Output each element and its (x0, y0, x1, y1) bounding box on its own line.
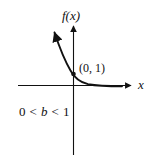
exponential-decay-figure: f(x) x (0, 1) 0 < b < 1 (0, 0, 154, 155)
point-label-0-1: (0, 1) (79, 62, 105, 74)
base-condition-label: 0 < b < 1 (19, 105, 70, 118)
y-axis-label: f(x) (62, 9, 80, 22)
graph-canvas (0, 0, 154, 155)
point-marker-0-1 (71, 72, 76, 77)
exponential-decay-curve (55, 33, 123, 87)
x-axis-label: x (138, 78, 144, 91)
condition-prefix: 0 < (19, 104, 41, 119)
condition-variable: b (41, 104, 48, 119)
condition-suffix: < 1 (48, 104, 70, 119)
